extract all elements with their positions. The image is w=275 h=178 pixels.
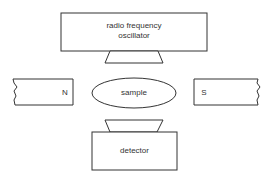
oscillator-label-line1: radio frequency (61, 21, 207, 31)
detector-coil (105, 120, 163, 132)
magnet-south-label: S (199, 88, 209, 98)
oscillator-coil (105, 51, 163, 63)
detector-label: detector (92, 146, 177, 156)
oscillator-label-line2: oscillator (61, 31, 207, 41)
sample-label: sample (92, 88, 176, 98)
magnet-north-label: N (60, 88, 70, 98)
